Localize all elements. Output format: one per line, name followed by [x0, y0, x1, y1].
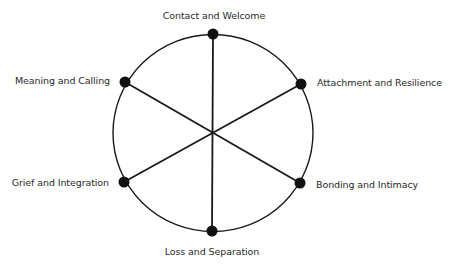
node-attachment: [296, 79, 307, 90]
label-attachment: Attachment and Resilience: [317, 77, 442, 88]
node-meaning: [120, 77, 131, 88]
node-loss: [207, 226, 218, 237]
label-meaning: Meaning and Calling: [15, 75, 110, 86]
node-contact: [208, 29, 219, 40]
label-contact: Contact and Welcome: [163, 10, 266, 21]
label-bonding: Bonding and Intimacy: [316, 179, 419, 190]
label-grief: Grief and Integration: [12, 177, 109, 188]
node-bonding: [295, 178, 306, 189]
label-loss: Loss and Separation: [165, 246, 260, 257]
node-grief: [119, 177, 130, 188]
wheel-diagram: Contact and Welcome Attachment and Resil…: [0, 0, 454, 267]
